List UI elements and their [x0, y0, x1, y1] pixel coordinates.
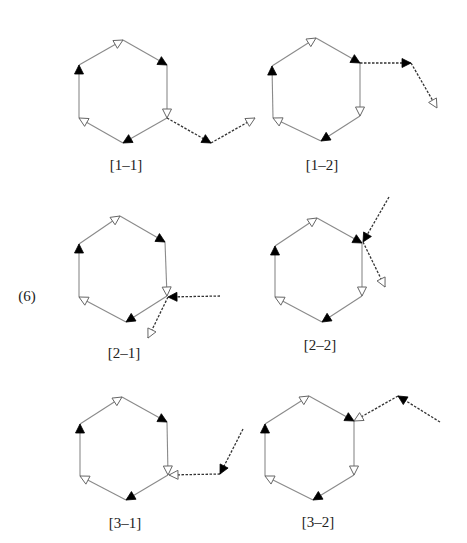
open-arrowhead-icon	[356, 107, 365, 116]
open-arrowhead-icon	[275, 297, 285, 305]
panel-label-3-2: [3–2]	[302, 514, 335, 531]
panel-2-2	[271, 197, 390, 322]
panel-label-1-1: [1–1]	[110, 157, 143, 174]
diagram-canvas	[0, 0, 467, 543]
open-arrowhead-icon	[350, 466, 359, 475]
open-arrowhead-icon	[112, 397, 122, 406]
filled-arrowhead-icon	[123, 135, 133, 143]
panel-1-1	[75, 40, 256, 143]
open-arrowhead-icon	[169, 470, 178, 479]
diagram-figure: (6) [1–1] [1–2] [2–1] [2–2] [3–1] [3–2]	[0, 0, 467, 543]
filled-arrowhead-icon	[76, 424, 85, 433]
open-arrowhead-icon	[306, 38, 316, 47]
equation-number: (6)	[18, 288, 36, 305]
filled-arrowhead-icon	[75, 244, 84, 253]
open-arrowhead-icon	[80, 476, 90, 484]
panel-label-1-2: [1–2]	[306, 157, 339, 174]
filled-arrowhead-icon	[398, 396, 408, 405]
open-arrowhead-icon	[358, 287, 367, 296]
panel-1-2	[268, 38, 437, 141]
open-arrowhead-icon	[273, 118, 283, 126]
open-arrowhead-icon	[113, 40, 123, 48]
panel-3-1	[76, 397, 244, 500]
filled-arrowhead-icon	[126, 492, 136, 500]
open-arrowhead-icon	[307, 218, 317, 227]
open-arrowhead-icon	[354, 413, 364, 421]
panel-3-2	[261, 396, 441, 500]
open-arrowhead-icon	[79, 297, 89, 305]
filled-arrowhead-icon	[268, 66, 277, 75]
panel-2-1	[75, 216, 221, 338]
open-arrowhead-icon	[162, 287, 171, 296]
filled-arrowhead-icon	[126, 313, 136, 322]
panel-label-3-1: [3–1]	[109, 515, 142, 532]
filled-arrowhead-icon	[402, 59, 411, 68]
filled-arrowhead-icon	[321, 132, 331, 141]
open-arrowhead-icon	[79, 118, 89, 126]
open-arrowhead-icon	[110, 216, 120, 225]
filled-arrowhead-icon	[75, 65, 84, 74]
filled-arrowhead-icon	[350, 55, 360, 63]
filled-arrowhead-icon	[271, 246, 280, 255]
open-arrowhead-icon	[245, 118, 255, 126]
open-arrowhead-icon	[148, 328, 156, 338]
open-arrowhead-icon	[163, 109, 172, 118]
open-arrowhead-icon	[429, 98, 437, 108]
filled-arrowhead-icon	[322, 313, 332, 322]
open-arrowhead-icon	[265, 476, 275, 484]
open-arrowhead-icon	[377, 277, 385, 287]
open-arrowhead-icon	[299, 396, 309, 405]
filled-arrowhead-icon	[313, 491, 323, 500]
filled-arrowhead-icon	[157, 57, 167, 65]
panel-label-2-2: [2–2]	[304, 337, 337, 354]
filled-arrowhead-icon	[155, 234, 165, 242]
panel-label-2-1: [2–1]	[108, 345, 141, 362]
filled-arrowhead-icon	[261, 424, 270, 433]
filled-arrowhead-icon	[168, 292, 177, 301]
